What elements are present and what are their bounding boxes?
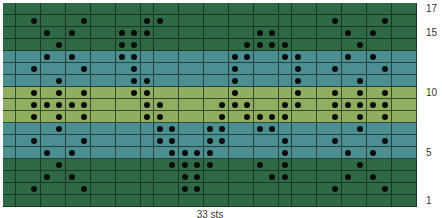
chart-cell xyxy=(154,111,167,123)
chart-cell xyxy=(279,183,292,195)
chart-cell xyxy=(91,111,104,123)
chart-cell xyxy=(304,99,317,111)
chart-cell xyxy=(166,159,179,171)
contrast-stitch-dot-icon xyxy=(345,102,351,108)
chart-cell xyxy=(41,51,54,63)
contrast-stitch-dot-icon xyxy=(382,114,388,120)
chart-cell xyxy=(317,27,330,39)
contrast-stitch-dot-icon xyxy=(169,138,175,144)
chart-cell xyxy=(78,51,91,63)
chart-cell xyxy=(354,51,367,63)
chart-cell xyxy=(53,183,66,195)
contrast-stitch-dot-icon xyxy=(219,126,225,132)
chart-cell xyxy=(404,51,417,63)
chart-cell xyxy=(154,171,167,183)
chart-cell xyxy=(292,123,305,135)
chart-cell xyxy=(78,87,91,99)
chart-cell xyxy=(141,123,154,135)
chart-cell xyxy=(66,111,79,123)
chart-cell xyxy=(66,123,79,135)
chart-cell xyxy=(229,147,242,159)
chart-cell xyxy=(154,39,167,51)
chart-cell xyxy=(292,135,305,147)
chart-cell xyxy=(254,183,267,195)
contrast-stitch-dot-icon xyxy=(194,186,200,192)
chart-cell xyxy=(254,51,267,63)
chart-cell xyxy=(3,171,16,183)
chart-cell xyxy=(103,147,116,159)
chart-cell xyxy=(116,63,129,75)
chart-cell xyxy=(354,183,367,195)
chart-cell xyxy=(41,147,54,159)
chart-cell xyxy=(329,15,342,27)
chart-cell xyxy=(367,171,380,183)
chart-cell xyxy=(329,51,342,63)
chart-cell xyxy=(354,135,367,147)
chart-cell xyxy=(128,75,141,87)
chart-cell xyxy=(354,87,367,99)
chart-cell xyxy=(254,135,267,147)
contrast-stitch-dot-icon xyxy=(332,66,338,72)
contrast-stitch-dot-icon xyxy=(157,126,163,132)
chart-cell xyxy=(392,147,405,159)
chart-cell xyxy=(78,111,91,123)
chart-cell xyxy=(317,51,330,63)
chart-cell xyxy=(354,171,367,183)
chart-cell xyxy=(116,75,129,87)
chart-cell xyxy=(392,39,405,51)
chart-cell xyxy=(304,171,317,183)
chart-cell xyxy=(354,27,367,39)
contrast-stitch-dot-icon xyxy=(332,90,338,96)
contrast-stitch-dot-icon xyxy=(69,54,75,60)
chart-cell xyxy=(141,135,154,147)
contrast-stitch-dot-icon xyxy=(295,90,301,96)
chart-cell xyxy=(216,195,229,207)
contrast-stitch-dot-icon xyxy=(269,42,275,48)
chart-cell xyxy=(141,51,154,63)
chart-cell xyxy=(128,51,141,63)
chart-cell xyxy=(154,63,167,75)
chart-cell xyxy=(329,171,342,183)
chart-cell xyxy=(103,159,116,171)
chart-cell xyxy=(128,171,141,183)
chart-cell xyxy=(28,195,41,207)
chart-cell xyxy=(41,15,54,27)
chart-cell xyxy=(342,51,355,63)
chart-cell xyxy=(392,63,405,75)
chart-cell xyxy=(3,27,16,39)
chart-cell xyxy=(317,39,330,51)
chart-cell xyxy=(254,195,267,207)
contrast-stitch-dot-icon xyxy=(119,54,125,60)
contrast-stitch-dot-icon xyxy=(269,114,275,120)
chart-cell xyxy=(304,147,317,159)
chart-cell xyxy=(41,195,54,207)
chart-cell xyxy=(28,171,41,183)
chart-cell xyxy=(266,195,279,207)
chart-cell xyxy=(53,123,66,135)
chart-cell xyxy=(392,87,405,99)
chart-cell xyxy=(53,3,66,15)
chart-cell xyxy=(179,171,192,183)
chart-cell xyxy=(128,123,141,135)
chart-cell xyxy=(116,51,129,63)
chart-cell xyxy=(66,147,79,159)
chart-cell xyxy=(191,39,204,51)
contrast-stitch-dot-icon xyxy=(56,162,62,168)
chart-cell xyxy=(116,159,129,171)
chart-cell xyxy=(141,195,154,207)
chart-cell xyxy=(3,3,16,15)
chart-cell xyxy=(41,27,54,39)
chart-cell xyxy=(266,111,279,123)
chart-cell xyxy=(103,123,116,135)
contrast-stitch-dot-icon xyxy=(81,114,87,120)
chart-cell xyxy=(66,39,79,51)
chart-cell xyxy=(379,111,392,123)
contrast-stitch-dot-icon xyxy=(31,114,37,120)
chart-cell xyxy=(128,147,141,159)
contrast-stitch-dot-icon xyxy=(357,126,363,132)
chart-cell xyxy=(292,15,305,27)
chart-cell xyxy=(279,63,292,75)
contrast-stitch-dot-icon xyxy=(219,102,225,108)
chart-cell xyxy=(404,75,417,87)
chart-cell xyxy=(404,183,417,195)
